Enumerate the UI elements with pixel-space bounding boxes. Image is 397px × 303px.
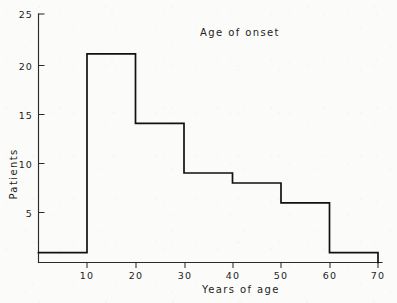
x-axis-ticks: [87, 263, 378, 269]
x-tick-label-70: 70: [371, 270, 385, 281]
y-tick-label-10: 10: [19, 159, 33, 170]
x-tick-label-60: 60: [323, 270, 337, 281]
y-axis-title: Patients: [8, 148, 19, 199]
x-tick-label-50: 50: [274, 270, 288, 281]
x-tick-label-10: 10: [80, 270, 94, 281]
y-axis-tick-labels: 25 20 15 10 5: [19, 9, 33, 219]
x-axis-title: Years of age: [201, 284, 280, 295]
x-tick-label-30: 30: [178, 270, 192, 281]
chart-title: Age of onset: [200, 27, 280, 38]
y-axis-ticks: [39, 14, 45, 213]
x-tick-label-40: 40: [226, 270, 240, 281]
y-tick-label-25: 25: [19, 9, 33, 20]
y-tick-label-5: 5: [26, 208, 33, 219]
x-axis-tick-labels: 10 20 30 40 50 60 70: [80, 270, 385, 281]
x-tick-label-20: 20: [129, 270, 143, 281]
histogram-chart: 25 20 15 10 5 10 20 30 40 50 60 70 Yea: [0, 0, 397, 303]
histogram-step-outline: [39, 54, 379, 263]
y-tick-label-15: 15: [19, 110, 33, 121]
y-tick-label-20: 20: [19, 61, 33, 72]
figure-root: 25 20 15 10 5 10 20 30 40 50 60 70 Yea: [0, 0, 397, 303]
